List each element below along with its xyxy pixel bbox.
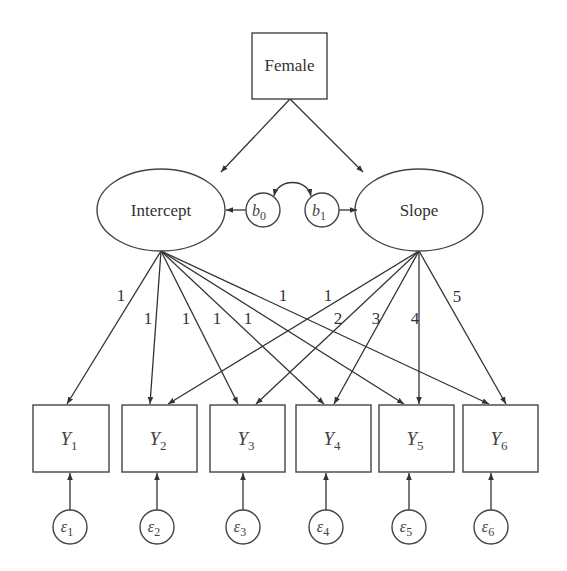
e1-node: ε1 <box>53 510 87 544</box>
intercept-to-y5-arrow <box>161 251 404 404</box>
growth-model-diagram: Female 1 1 1 1 1 1 1 2 3 4 5 Intercept <box>0 0 567 571</box>
female-label: Female <box>264 56 314 75</box>
loading-labels: 1 1 1 1 1 1 1 2 3 4 5 <box>117 286 462 328</box>
intercept-loadings <box>67 251 489 404</box>
b1-node: b1 <box>305 193 339 227</box>
covariate-paths <box>221 99 363 172</box>
y6-sub: 6 <box>501 438 508 453</box>
b0-base: b <box>252 202 260 219</box>
slope-loading-y4: 3 <box>372 309 381 328</box>
y1-node: Y1 <box>33 405 109 472</box>
slope-node: Slope <box>355 169 483 251</box>
y3-sub: 3 <box>248 438 255 453</box>
y1-sub: 1 <box>71 438 78 453</box>
intercept-label: Intercept <box>131 201 192 220</box>
intercept-loading-y2: 1 <box>144 309 153 328</box>
e6-node: ε6 <box>474 510 508 544</box>
intercept-loading-y5: 1 <box>244 309 253 328</box>
e3-node: ε3 <box>226 510 260 544</box>
b0-b1-covariance-arrow <box>274 183 311 197</box>
slope-loading-y3: 2 <box>334 309 343 328</box>
observed-variables: Y1 Y2 Y3 Y4 Y5 Y6 <box>33 405 538 472</box>
e3-sub: 3 <box>240 525 246 539</box>
e5-sub: 5 <box>406 525 412 539</box>
y6-node: Y6 <box>463 405 538 472</box>
error-terms: ε1 ε2 ε3 ε4 ε5 ε6 <box>53 510 508 544</box>
slope-loading-y5: 4 <box>411 309 420 328</box>
slope-to-y2-arrow <box>168 251 419 404</box>
intercept-loading-y1: 1 <box>117 286 126 305</box>
slope-label: Slope <box>400 201 439 220</box>
intercept-to-y6-arrow <box>161 251 489 404</box>
b1-sub: 1 <box>320 209 326 223</box>
y4-sub: 4 <box>334 438 341 453</box>
female-node: Female <box>252 33 327 99</box>
female-to-intercept-arrow <box>221 99 290 172</box>
e4-sub: 4 <box>323 525 329 539</box>
intercept-node: Intercept <box>97 169 225 251</box>
intercept-loading-y4: 1 <box>213 309 222 328</box>
e5-node: ε5 <box>392 510 426 544</box>
female-to-slope-arrow <box>290 99 363 172</box>
b0-sub: 0 <box>260 209 266 223</box>
y3-node: Y3 <box>210 405 285 472</box>
slope-loading-y6: 5 <box>453 287 462 306</box>
b1-base: b <box>312 202 320 219</box>
e6-sub: 6 <box>488 525 494 539</box>
e2-node: ε2 <box>140 510 174 544</box>
y5-sub: 5 <box>417 438 424 453</box>
e2-sub: 2 <box>154 525 160 539</box>
y4-node: Y4 <box>296 405 371 472</box>
error-paths <box>70 473 491 510</box>
y2-sub: 2 <box>160 438 167 453</box>
e1-sub: 1 <box>67 525 73 539</box>
b0-node: b0 <box>246 193 280 227</box>
slope-loading-y2: 1 <box>324 286 333 305</box>
e4-node: ε4 <box>309 510 343 544</box>
y2-node: Y2 <box>122 405 197 472</box>
y5-node: Y5 <box>379 405 454 472</box>
slope-to-y6-arrow <box>419 251 506 404</box>
intercept-to-y3-arrow <box>161 251 238 404</box>
intercept-loading-y3: 1 <box>182 309 191 328</box>
intercept-loading-y6: 1 <box>279 286 288 305</box>
